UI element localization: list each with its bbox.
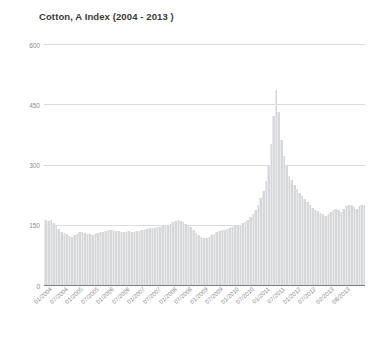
bar <box>363 205 366 285</box>
y-tick-label-600: 600 <box>29 41 40 48</box>
y-tick-label-150: 150 <box>29 222 40 229</box>
gridline-300 <box>44 165 365 166</box>
y-tick-label-300: 300 <box>29 162 40 169</box>
chart-title: Cotton, A Index (2004 - 2013 ) <box>39 11 174 22</box>
y-tick-label-450: 450 <box>29 101 40 108</box>
plot-area <box>44 44 365 285</box>
y-tick-label-0: 0 <box>36 282 40 289</box>
cotton-a-index-chart: Cotton, A Index (2004 - 2013 ) 015030045… <box>0 0 383 337</box>
gridline-450 <box>44 104 365 105</box>
x-axis-tick-labels: 01/200407/200401/200507/200501/200607/20… <box>44 286 365 336</box>
y-axis-tick-labels: 0150300450600 <box>0 44 40 285</box>
gridline-600 <box>44 44 365 45</box>
